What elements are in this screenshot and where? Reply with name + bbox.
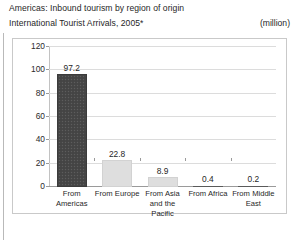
bar-column: 22.8	[94, 47, 139, 187]
x-axis-category-label: From Americas	[49, 187, 94, 213]
chart-frame: 020406080100120 97.222.88.90.40.2 From A…	[12, 38, 287, 214]
chart-title-line-2: International Tourist Arrivals, 2005*	[9, 16, 239, 31]
bar: 97.2	[57, 74, 87, 187]
bar-column: 0.2	[231, 47, 276, 187]
x-axis-labels: From AmericasFrom EuropeFrom Asia and th…	[49, 187, 276, 213]
x-axis-category-label: From Asia and the Pacific	[140, 187, 185, 213]
y-axis-tick-label: 100	[31, 64, 45, 74]
bar: 8.9	[148, 177, 178, 187]
chart-title-line-1: Americas: Inbound tourism by region of o…	[9, 1, 239, 16]
y-axis-tick-label: 20	[36, 158, 45, 168]
x-axis-separator-tick	[94, 158, 95, 161]
bar-column: 8.9	[140, 47, 185, 187]
x-axis-category-label: From Africa	[185, 187, 230, 213]
y-axis-tick-label: 120	[31, 41, 45, 51]
bar-value-label: 0.2	[248, 174, 260, 184]
chart-titles: Americas: Inbound tourism by region of o…	[9, 1, 239, 31]
bar-column: 97.2	[49, 47, 94, 187]
plot-area: 020406080100120 97.222.88.90.40.2	[49, 47, 276, 187]
unit-label: (million)	[260, 16, 290, 31]
bar-value-label: 22.8	[109, 149, 125, 159]
x-axis-separator-tick	[185, 158, 186, 161]
y-axis-tick-label: 40	[36, 134, 45, 144]
bar-column: 0.4	[185, 47, 230, 187]
bar-series: 97.222.88.90.40.2	[49, 47, 276, 187]
bar-value-label: 0.4	[202, 174, 214, 184]
bar: 22.8	[102, 160, 132, 187]
x-axis-separator-tick	[231, 158, 232, 161]
x-axis-category-label: From Europe	[94, 187, 139, 213]
bar-value-label: 8.9	[157, 166, 169, 176]
y-axis-tick-label: 60	[36, 111, 45, 121]
x-axis-separator-tick	[140, 158, 141, 161]
x-axis-category-label: From Middle East	[231, 187, 276, 213]
y-axis-tick-label: 0	[40, 181, 45, 191]
page-border-rule	[3, 33, 4, 240]
bar-value-label: 97.2	[64, 63, 80, 73]
y-axis-tick-label: 80	[36, 88, 45, 98]
